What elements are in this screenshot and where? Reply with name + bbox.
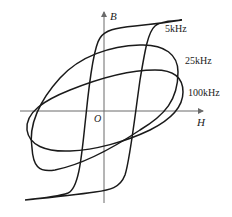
label-25khz: 25kHz	[185, 55, 212, 66]
b-axis-label: B	[110, 10, 117, 22]
label-5khz: 5kHz	[165, 23, 187, 34]
label-100khz: 100kHz	[188, 87, 220, 98]
hysteresis-diagram: B H O 5kHz 25kHz 100kHz	[0, 0, 232, 217]
loop-25khz	[31, 45, 178, 171]
origin-label: O	[94, 113, 101, 124]
h-axis-label: H	[196, 116, 206, 128]
